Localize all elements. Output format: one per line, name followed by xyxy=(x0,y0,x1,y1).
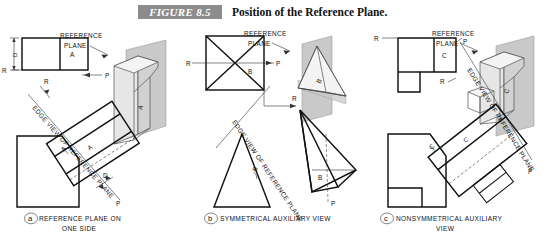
panel-a-plane-label-aux: P xyxy=(116,200,121,207)
panel-a: A D R P A REFERENCE PL xyxy=(0,22,186,247)
panel-b-plane-label-aux: P xyxy=(331,200,336,207)
panel-a-caption-line1: REFERENCE PLANE ON xyxy=(39,215,121,222)
panel-b-aux-object-label: B xyxy=(318,174,323,181)
panel-c-caption: c NONSYMMETRICAL AUXILIARY VIEW xyxy=(381,213,503,232)
panel-b-front-view: B xyxy=(214,134,270,207)
panel-a-caption-letter: a xyxy=(28,214,33,223)
panel-b: R P B B REFERENCE PLANE R EDGE VIEW OF R… xyxy=(186,22,372,247)
panel-b-refplane-line2: PLANE xyxy=(248,40,271,47)
panel-c-top-object-label: C xyxy=(442,52,447,59)
panel-b-ref-label-top: R xyxy=(186,60,191,67)
panel-a-depth-label-aux: D xyxy=(103,172,108,179)
panel-a-pictorial: A REFERENCE PLANE xyxy=(60,32,166,144)
panel-a-plane-label-top: P xyxy=(105,72,110,79)
panel-a-caption: a REFERENCE PLANE ON ONE SIDE xyxy=(25,213,122,232)
figure-number-text: FIGURE 8.5 xyxy=(138,5,222,19)
panel-a-ref-label-top: R xyxy=(2,67,7,74)
panel-c-ref-label-top: R xyxy=(374,35,379,42)
panel-a-ref-label-aux: R xyxy=(44,78,49,85)
panel-c-refplane-line2: PLANE xyxy=(436,40,459,47)
panel-c-front-object-label: C xyxy=(427,142,436,150)
panel-b-top-object-label: B xyxy=(248,68,253,75)
panel-c-aux-object-label: C xyxy=(462,135,470,144)
panel-c-refplane-line1: REFERENCE xyxy=(432,30,475,37)
panel-b-pictorial: B REFERENCE PLANE xyxy=(244,30,346,122)
figure-number-badge: FIGURE 8.5 xyxy=(138,5,222,19)
panel-b-ref-label-aux: R xyxy=(292,95,297,102)
panel-b-front-object-label: B xyxy=(251,165,259,172)
panel-c-plane-label-aux: P xyxy=(528,168,533,175)
panel-a-depth-label: D xyxy=(11,52,18,57)
panel-c-ref-label-aux: R xyxy=(440,78,445,85)
panel-c-front-view: C xyxy=(388,134,446,207)
panel-c-caption-line2: VIEW xyxy=(436,225,455,232)
figure-container: FIGURE 8.5 Position of the Reference Pla… xyxy=(0,0,559,247)
panel-b-aux-view: R EDGE VIEW OF REFERENCE PLANE B P xyxy=(216,86,356,223)
panel-a-aux-object-label: A xyxy=(86,143,94,152)
panel-c-caption-letter: c xyxy=(384,214,388,223)
panel-b-caption: b SYMMETRICAL AUXILIARY VIEW xyxy=(205,213,332,224)
panel-b-refplane-line1: REFERENCE xyxy=(244,30,287,37)
panel-b-plane-label-top: P xyxy=(276,60,281,67)
panel-a-top-object-label: A xyxy=(70,51,75,58)
panel-b-caption-line1: SYMMETRICAL AUXILIARY VIEW xyxy=(220,215,331,222)
panel-b-caption-letter: b xyxy=(208,214,212,223)
panel-c-caption-line1: NONSYMMETRICAL AUXILIARY xyxy=(396,215,502,222)
panel-a-top-view: A D R P xyxy=(2,38,110,79)
panel-a-refplane-line1: REFERENCE xyxy=(60,32,103,39)
panel-c: R C P C REFERENCE PLANE EDGE VIEW OF xyxy=(372,22,559,247)
panel-c-plane-label-top: P xyxy=(463,38,468,45)
figure-title: Position of the Reference Plane. xyxy=(232,4,387,20)
panel-a-refplane-line2: PLANE xyxy=(64,42,87,49)
figure-header: FIGURE 8.5 Position of the Reference Pla… xyxy=(0,0,559,24)
panel-a-caption-line2: ONE SIDE xyxy=(62,225,97,232)
